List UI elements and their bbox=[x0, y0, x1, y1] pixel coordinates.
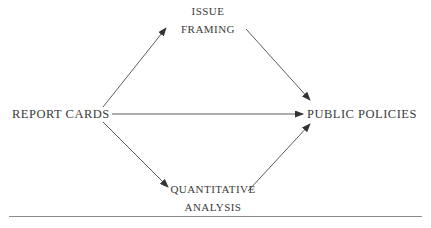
edge-issue-framing-to-public-policies bbox=[246, 29, 310, 100]
node-public-policies-line-1: PUBLIC POLICIES bbox=[307, 105, 417, 123]
node-issue-framing-line-1: ISSUE bbox=[148, 2, 268, 20]
edge-report-cards-to-issue-framing bbox=[103, 28, 166, 107]
node-issue-framing-line-2: FRAMING bbox=[148, 20, 268, 38]
node-quantitative-analysis-line-2: ANALYSIS bbox=[153, 198, 273, 216]
node-issue-framing: ISSUE FRAMING bbox=[148, 2, 268, 38]
diagram-page: REPORT CARDS ISSUE FRAMING QUANTITATIVE … bbox=[0, 0, 431, 228]
node-public-policies: PUBLIC POLICIES bbox=[307, 105, 417, 123]
footer-divider bbox=[9, 216, 422, 217]
edge-report-cards-to-quantitative-analysis bbox=[103, 122, 168, 187]
node-quantitative-analysis-line-1: QUANTITATIVE bbox=[153, 180, 273, 198]
node-report-cards-line-1: REPORT CARDS bbox=[12, 105, 110, 123]
node-quantitative-analysis: QUANTITATIVE ANALYSIS bbox=[153, 180, 273, 216]
node-report-cards: REPORT CARDS bbox=[12, 105, 110, 123]
